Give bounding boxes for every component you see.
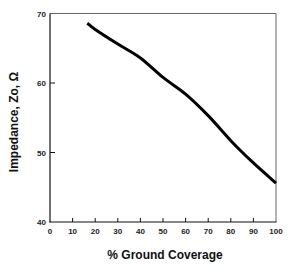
x-axis-label: % Ground Coverage — [107, 248, 223, 262]
x-tick-label: 90 — [249, 227, 258, 236]
y-tick-label: 60 — [37, 79, 46, 88]
x-tick-label: 50 — [159, 227, 168, 236]
x-axis-ticks: 0102030405060708090100 — [48, 218, 283, 236]
data-series — [87, 23, 276, 183]
x-tick-label: 60 — [181, 227, 190, 236]
x-tick-label: 0 — [48, 227, 53, 236]
x-tick-label: 10 — [68, 227, 77, 236]
x-tick-label: 20 — [91, 227, 100, 236]
impedance-curve — [87, 23, 276, 183]
y-axis-label: Impedance, Zo, Ω — [7, 71, 21, 172]
x-tick-label: 30 — [113, 227, 122, 236]
y-tick-label: 40 — [37, 218, 46, 227]
x-tick-label: 80 — [226, 227, 235, 236]
y-axis-ticks: 40506070 — [37, 10, 55, 228]
y-tick-label: 50 — [37, 149, 46, 158]
plot-frame — [50, 14, 277, 223]
x-tick-label: 100 — [269, 227, 283, 236]
x-tick-label: 40 — [136, 227, 145, 236]
impedance-chart: 0102030405060708090100 40506070 % Ground… — [0, 0, 293, 268]
y-tick-label: 70 — [37, 10, 46, 19]
x-tick-label: 70 — [204, 227, 213, 236]
